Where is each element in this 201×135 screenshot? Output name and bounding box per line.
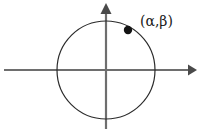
- unit-circle-figure: (α,β): [0, 0, 201, 135]
- point-coordinate-label: (α,β): [140, 14, 173, 28]
- y-axis: [101, 3, 112, 129]
- x-axis-arrowhead-icon: [188, 65, 197, 76]
- x-axis: [4, 65, 197, 76]
- point-marker: [124, 26, 132, 34]
- y-axis-arrowhead-icon: [101, 3, 112, 14]
